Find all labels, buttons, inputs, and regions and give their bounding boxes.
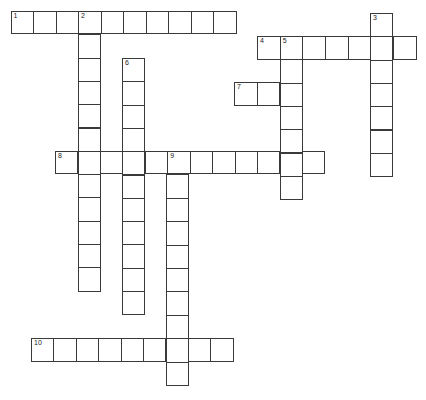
crossword-cell[interactable] [146, 11, 170, 34]
crossword-cell[interactable]: 4 [257, 36, 281, 60]
crossword-cell[interactable] [101, 11, 125, 34]
crossword-cell[interactable] [122, 221, 145, 245]
crossword-cell[interactable] [370, 83, 393, 107]
clue-number-8: 8 [58, 152, 62, 160]
crossword-cell[interactable] [166, 221, 189, 245]
crossword-cell[interactable] [166, 338, 189, 362]
crossword-cell[interactable] [257, 151, 280, 174]
crossword-cell[interactable] [166, 362, 189, 386]
clue-number-4: 4 [260, 37, 264, 45]
clue-number-9: 9 [170, 152, 174, 160]
crossword-cell[interactable] [78, 34, 101, 58]
crossword-cell[interactable] [280, 176, 303, 200]
clue-number-7: 7 [237, 83, 241, 91]
crossword-cell[interactable]: 8 [55, 151, 78, 174]
crossword-cell[interactable] [302, 36, 326, 60]
crossword-cell[interactable]: 1 [11, 11, 35, 34]
crossword-cell[interactable] [122, 151, 145, 175]
crossword-cell[interactable] [122, 81, 145, 105]
crossword-cell[interactable] [191, 11, 215, 34]
crossword-cell[interactable] [78, 267, 101, 291]
clue-number-6: 6 [125, 59, 129, 67]
crossword-cell[interactable] [33, 11, 57, 34]
crossword-cell[interactable] [100, 151, 123, 174]
crossword-cell[interactable] [370, 60, 393, 84]
crossword-cell[interactable] [78, 244, 101, 268]
crossword-cell[interactable] [122, 198, 145, 222]
crossword-cell[interactable] [190, 151, 213, 174]
crossword-cell[interactable] [280, 83, 303, 107]
crossword-cell[interactable] [78, 58, 101, 82]
crossword-cell[interactable] [78, 174, 101, 198]
crossword-cell[interactable] [393, 36, 417, 60]
crossword-cell[interactable]: 10 [31, 338, 54, 362]
clue-number-2: 2 [81, 12, 85, 20]
crossword-cell[interactable] [78, 221, 101, 245]
crossword-cell[interactable] [166, 174, 189, 198]
crossword-cell[interactable] [188, 338, 211, 362]
crossword-cell[interactable] [166, 291, 189, 315]
crossword-cell[interactable] [302, 151, 325, 174]
crossword-cell[interactable] [280, 59, 303, 83]
crossword-cell[interactable] [78, 81, 101, 105]
crossword-cell[interactable] [121, 338, 144, 362]
crossword-cell[interactable]: 6 [122, 58, 145, 82]
crossword-cell[interactable] [166, 198, 189, 222]
clue-number-3: 3 [373, 14, 377, 22]
crossword-cell[interactable] [78, 104, 101, 128]
crossword-cell[interactable] [235, 151, 258, 174]
crossword-cell[interactable] [78, 128, 101, 152]
crossword-cell[interactable] [210, 338, 233, 362]
crossword-cell[interactable] [123, 11, 147, 34]
crossword-cell[interactable] [280, 153, 303, 177]
crossword-cell[interactable] [213, 11, 237, 34]
crossword-cell[interactable] [122, 291, 145, 315]
clue-number-10: 10 [34, 339, 42, 347]
crossword-cell[interactable] [370, 153, 393, 177]
crossword-cell[interactable] [370, 106, 393, 130]
crossword-cell[interactable] [370, 36, 393, 60]
crossword-cell[interactable]: 2 [78, 11, 102, 34]
crossword-cell[interactable] [166, 268, 189, 292]
crossword-cell[interactable] [143, 338, 166, 362]
crossword-cell[interactable] [325, 36, 349, 60]
crossword-cell[interactable]: 5 [280, 36, 304, 60]
crossword-cell[interactable]: 7 [234, 82, 258, 106]
crossword-cell[interactable] [122, 128, 145, 152]
crossword-cell[interactable] [348, 36, 372, 60]
crossword-cell[interactable] [280, 106, 303, 130]
crossword-cell[interactable] [280, 129, 303, 153]
crossword-cell[interactable] [53, 338, 76, 362]
crossword-cell[interactable] [370, 130, 393, 154]
crossword-cell[interactable]: 9 [167, 151, 190, 174]
crossword-cell[interactable] [212, 151, 235, 174]
crossword-cell[interactable] [56, 11, 80, 34]
crossword-cell[interactable] [145, 151, 168, 174]
crossword-cell[interactable] [257, 82, 281, 106]
crossword-cell[interactable] [122, 244, 145, 268]
crossword-cell[interactable]: 3 [370, 13, 393, 37]
crossword-cell[interactable] [78, 197, 101, 221]
crossword-cell[interactable] [78, 151, 101, 175]
crossword-cell[interactable] [166, 315, 189, 339]
crossword-cell[interactable] [166, 245, 189, 269]
crossword-cell[interactable] [122, 175, 145, 199]
crossword-cell[interactable] [122, 268, 145, 292]
crossword-cell[interactable] [98, 338, 121, 362]
crossword-grid: 12345678910 [0, 0, 426, 400]
crossword-cell[interactable] [76, 338, 99, 362]
crossword-cell[interactable] [168, 11, 192, 34]
clue-number-1: 1 [14, 12, 18, 20]
crossword-cell[interactable] [122, 105, 145, 129]
clue-number-5: 5 [283, 37, 287, 45]
